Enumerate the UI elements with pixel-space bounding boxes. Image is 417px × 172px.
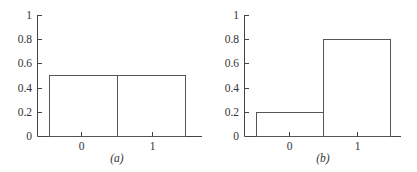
y-tick-label: 1: [233, 9, 239, 21]
y-tick-label: 0.2: [225, 106, 240, 118]
y-tick-label: 0.8: [225, 33, 240, 45]
y-tick-label: 0.4: [225, 82, 240, 94]
bar-1: [118, 76, 186, 137]
y-ticks: 0 0.2 0.4 0.6 0.8 1: [18, 9, 42, 142]
chart-caption: (b): [316, 152, 330, 165]
x-tick-label: 0: [287, 140, 293, 152]
chart-b: 0 0.2 0.4 0.6 0.8 1 0 1 (b): [225, 9, 401, 165]
bar-0: [50, 76, 118, 137]
y-tick-label: 0.8: [18, 33, 33, 45]
y-tick-label: 0.6: [18, 57, 33, 69]
y-ticks: 0 0.2 0.4 0.6 0.8 1: [225, 9, 249, 142]
y-tick-label: 0.2: [18, 106, 33, 118]
y-tick-label: 0.6: [225, 57, 240, 69]
chart-caption: (a): [110, 152, 124, 165]
figure: 0 0.2 0.4 0.6 0.8 1 0 1 (a) 0 0.2 0.4 0: [0, 0, 417, 172]
y-tick-label: 0: [233, 130, 239, 142]
bar-1: [324, 40, 391, 137]
y-tick-label: 1: [26, 9, 32, 21]
y-tick-label: 0.4: [18, 82, 33, 94]
x-tick-label: 1: [150, 140, 156, 152]
x-tick-label: 0: [79, 140, 85, 152]
y-tick-label: 0: [26, 130, 32, 142]
chart-a: 0 0.2 0.4 0.6 0.8 1 0 1 (a): [18, 9, 202, 165]
x-tick-label: 1: [355, 140, 361, 152]
